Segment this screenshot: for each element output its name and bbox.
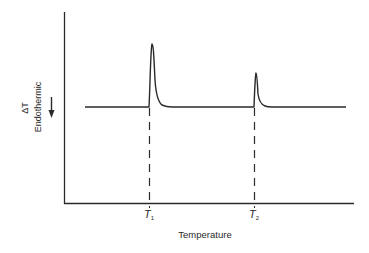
t1-label: T1 <box>144 208 155 221</box>
down-arrow-icon <box>49 97 55 118</box>
dta-chart: T1 T2 Temperature ΔT Endothermic <box>0 0 369 253</box>
dta-curve <box>85 44 346 107</box>
x-axis-label: Temperature <box>178 229 231 240</box>
t2-label: T2 <box>249 208 260 221</box>
y-axis-label: Endothermic <box>33 81 43 132</box>
y-axis-symbol: ΔT <box>20 102 30 114</box>
